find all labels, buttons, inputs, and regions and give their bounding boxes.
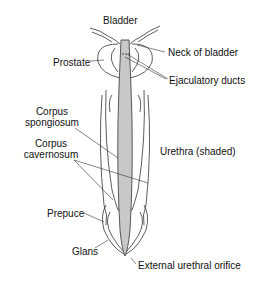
label-external-urethral-orifice: External urethral orifice: [138, 260, 241, 271]
label-urethra: Urethra (shaded): [160, 146, 236, 157]
label-glans: Glans: [72, 246, 98, 257]
label-ejaculatory-ducts: Ejaculatory ducts: [169, 75, 245, 86]
label-prepuce: Prepuce: [47, 208, 84, 219]
label-corpus-cavernosum-line1: Corpus: [20, 138, 82, 149]
label-corpus-spongiosum: Corpus spongiosum: [22, 106, 82, 128]
label-corpus-spongiosum-line2: spongiosum: [22, 117, 82, 128]
label-corpus-cavernosum-line2: cavernosum: [20, 149, 82, 160]
label-bladder: Bladder: [103, 15, 137, 26]
label-neck-of-bladder: Neck of bladder: [168, 47, 238, 58]
label-prostate: Prostate: [53, 57, 90, 68]
label-corpus-cavernosum: Corpus cavernosum: [20, 138, 82, 160]
label-corpus-spongiosum-line1: Corpus: [22, 106, 82, 117]
anatomy-diagram: Bladder Neck of bladder Prostate Ejacula…: [0, 0, 253, 281]
